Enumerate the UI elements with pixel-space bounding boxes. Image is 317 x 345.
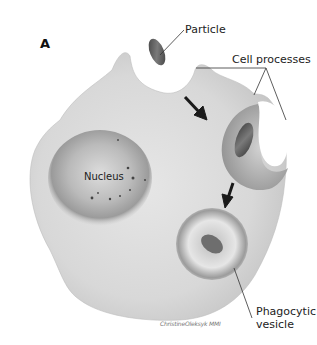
label-phagocytic-vesicle-line1: Phagocytic	[256, 305, 316, 318]
artist-signature: ChristineOleksyk MMI	[160, 320, 221, 327]
free-particle	[145, 36, 168, 67]
panel-letter: A	[40, 36, 50, 51]
label-phagocytic-vesicle-line2: vesicle	[256, 318, 294, 331]
label-cell-processes: Cell processes	[232, 53, 311, 66]
label-particle: Particle	[185, 23, 226, 36]
label-nucleus: Nucleus	[84, 170, 124, 183]
phagocytosis-illustration	[0, 0, 317, 345]
